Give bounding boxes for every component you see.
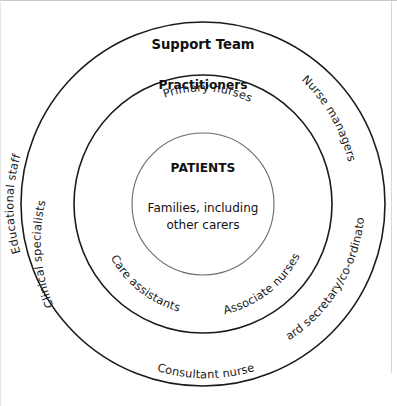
core-subtext-line-1: Families, including — [148, 201, 259, 215]
middle-ring-member-care-assistants: Care assistants — [108, 252, 182, 314]
outer-ring-heading: Support Team — [151, 37, 254, 52]
middle-ring-member-associate-nurses: Associate nurses — [222, 250, 303, 317]
core-subtext-line-2: other carers — [167, 218, 240, 232]
middle-ring-member-consultant-nurse: Consultant nurse — [156, 360, 256, 381]
figure-frame: Support Team Practitioners PATIENTS Fami… — [0, 0, 397, 406]
core-heading: PATIENTS — [171, 161, 236, 175]
outer-ring-member-nurse-managers: Nurse managers — [299, 72, 359, 163]
outer-ring-member-clinical-specialists: Clinical specialists — [30, 199, 57, 311]
concentric-rings-diagram: Support Team Practitioners PATIENTS Fami… — [1, 1, 397, 406]
